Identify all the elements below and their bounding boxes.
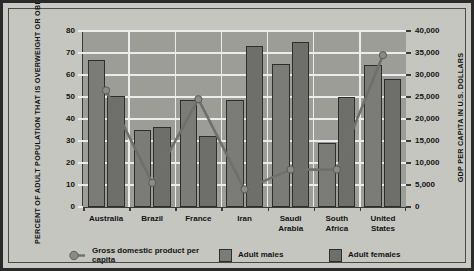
chart-screenshot: PERCENT OF ADULT POPULATION THAT IS OVER… <box>0 0 474 271</box>
left-axis-tick-label: 80 <box>35 26 75 35</box>
left-axis-tick-label: 50 <box>35 92 75 101</box>
right-axis-tick <box>406 162 411 164</box>
right-axis-tick <box>406 96 411 98</box>
x-axis-tick <box>221 207 223 211</box>
left-axis-tick-label: 70 <box>35 48 75 57</box>
right-axis-tick <box>406 140 411 142</box>
right-axis-tick-label: 10,000 <box>415 158 463 167</box>
right-axis-tick <box>406 118 411 120</box>
gdp-point-iran[interactable] <box>241 186 248 193</box>
x-axis-tick <box>314 207 316 211</box>
chart-legend: Gross domestic product per capita Adult … <box>69 242 419 268</box>
left-axis-tick-label: 20 <box>35 158 75 167</box>
x-axis-tick <box>129 207 131 211</box>
right-axis-tick-label: 0 <box>415 202 463 211</box>
gdp-point-france[interactable] <box>195 96 202 103</box>
right-axis-tick <box>406 74 411 76</box>
left-axis-tick-label: 10 <box>35 180 75 189</box>
line-marker-icon <box>69 250 86 261</box>
legend-label-males: Adult males <box>238 250 283 260</box>
female-swatch-icon <box>329 249 342 262</box>
legend-label-females: Adult females <box>348 250 400 260</box>
gdp-line <box>106 55 383 189</box>
legend-item-gdp: Gross domestic product per capita <box>69 246 219 265</box>
right-axis-tick <box>406 52 411 54</box>
left-axis-tick-label: 40 <box>35 114 75 123</box>
right-axis-tick <box>406 30 411 32</box>
gdp-point-saudi-arabia[interactable] <box>287 166 294 173</box>
x-axis-tick <box>360 207 362 211</box>
right-axis-tick <box>406 184 411 186</box>
right-axis-tick-label: 30,000 <box>415 70 463 79</box>
legend-item-females: Adult females <box>329 249 400 262</box>
right-axis-tick-label: 15,000 <box>415 136 463 145</box>
right-axis-tick-label: 40,000 <box>415 26 463 35</box>
legend-label-gdp: Gross domestic product per capita <box>92 246 210 265</box>
x-axis-label: UnitedStates <box>349 214 417 233</box>
gdp-point-united-states[interactable] <box>379 52 386 59</box>
right-axis-tick <box>406 206 411 208</box>
left-axis-tick-label: 0 <box>35 202 75 211</box>
left-axis-tick-label: 60 <box>35 70 75 79</box>
x-axis-tick <box>405 207 407 211</box>
male-swatch-icon <box>219 249 232 262</box>
right-axis-tick-label: 25,000 <box>415 92 463 101</box>
right-axis-tick-label: 5,000 <box>415 180 463 189</box>
x-axis-tick <box>83 207 85 211</box>
plot-area: 0102030405060708005,00010,00015,00020,00… <box>82 31 406 208</box>
right-axis-tick-label: 35,000 <box>415 48 463 57</box>
chart-frame: PERCENT OF ADULT POPULATION THAT IS OVER… <box>8 8 466 263</box>
gdp-point-brazil[interactable] <box>149 179 156 186</box>
gdp-line-series <box>83 31 406 207</box>
x-axis-tick <box>175 207 177 211</box>
gdp-point-south-africa[interactable] <box>333 166 340 173</box>
right-axis-tick-label: 20,000 <box>415 114 463 123</box>
legend-item-males: Adult males <box>219 249 329 262</box>
gdp-point-australia[interactable] <box>102 87 109 94</box>
x-axis-tick <box>268 207 270 211</box>
left-axis-tick-label: 30 <box>35 136 75 145</box>
